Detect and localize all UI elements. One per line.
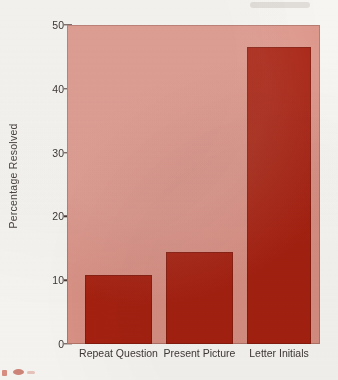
y-axis-tick-label: 0 (30, 339, 64, 350)
x-axis-tick-label: Repeat Question (79, 348, 158, 360)
y-axis-tick-group: 01020304050 (30, 0, 64, 380)
x-axis-tick-group: Repeat QuestionPresent PictureLetter Ini… (67, 348, 320, 368)
bar (166, 252, 233, 344)
y-axis-tick-label: 10 (30, 275, 64, 286)
bar (85, 275, 152, 344)
scan-blob (27, 371, 35, 374)
scan-artifact-bottom-left (2, 367, 36, 378)
y-axis-title: Percentage Resolved (0, 0, 26, 352)
x-axis-tick-label: Present Picture (164, 348, 236, 360)
bar (247, 47, 311, 344)
y-axis-tick-label: 20 (30, 211, 64, 222)
plot-area (67, 25, 320, 344)
y-axis-tick-label: 30 (30, 147, 64, 158)
y-axis-tick-label: 40 (30, 84, 64, 95)
bar-chart-figure: Percentage Resolved 01020304050 Repeat Q… (0, 0, 338, 380)
scan-blob (13, 369, 24, 375)
y-axis-tick-label: 50 (30, 20, 64, 31)
scan-blob (2, 370, 7, 376)
scan-noise-top (250, 2, 310, 8)
x-axis-tick-label: Letter Initials (249, 348, 309, 360)
y-axis-title-label: Percentage Resolved (7, 123, 19, 228)
